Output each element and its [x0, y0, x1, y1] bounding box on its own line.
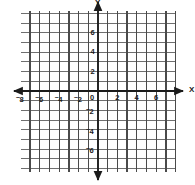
- x-tick-label: –4: [55, 94, 63, 103]
- tick-value: 2: [91, 67, 95, 76]
- y-tick-label: –6: [86, 145, 94, 154]
- y-tick-label: –4: [86, 126, 94, 135]
- tick-value: 4: [135, 93, 139, 102]
- y-tick-label: 6: [91, 29, 95, 37]
- y-axis-label: Y: [95, 0, 100, 7]
- origin-tick-label: 0: [90, 94, 94, 102]
- tick-value: 6: [39, 94, 43, 103]
- tick-value: 2: [115, 93, 119, 102]
- tick-value: 2: [78, 94, 82, 103]
- tick-value: 6: [91, 28, 95, 37]
- x-tick-label: 2: [115, 94, 119, 102]
- x-tick-label: –6: [35, 94, 43, 103]
- tick-value: 4: [58, 94, 62, 103]
- tick-value: 8: [19, 94, 23, 103]
- x-tick-label: –2: [74, 94, 82, 103]
- coordinate-grid-figure: X Y 0 –8–6–4–2246 642–2–4–6: [0, 0, 195, 185]
- tick-value: 6: [90, 146, 94, 155]
- tick-value: 2: [90, 107, 94, 116]
- y-tick-label: 4: [91, 48, 95, 56]
- y-tick-label: –2: [86, 106, 94, 115]
- tick-value: 4: [91, 47, 95, 56]
- tick-value: 4: [90, 127, 94, 136]
- x-tick-label: 4: [135, 94, 139, 102]
- tick-value: 6: [154, 93, 158, 102]
- y-tick-label: 2: [91, 68, 95, 76]
- x-tick-label: –8: [16, 94, 24, 103]
- x-tick-label: 6: [154, 94, 158, 102]
- grid-canvas: [0, 0, 195, 185]
- x-axis-label: X: [189, 86, 194, 94]
